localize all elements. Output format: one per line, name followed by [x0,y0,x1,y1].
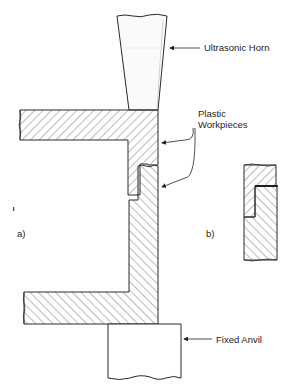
upper-workpiece [20,110,158,195]
ultrasonic-horn [117,14,167,110]
panel-a-label: a) [17,228,25,239]
detail-b [244,164,278,261]
workpiece-leader-lower [162,128,195,187]
fixed-anvil [108,324,181,380]
lower-workpiece [24,165,158,324]
horn-label: Ultrasonic Horn [204,42,269,53]
stray-mark [13,207,14,211]
anvil-label: Fixed Anvil [216,334,262,345]
ultrasonic-welding-diagram [0,0,290,389]
panel-b-label: b) [206,228,214,239]
workpieces-label-line1: Plastic [198,108,226,119]
workpieces-label-line2: Workpieces [198,119,247,130]
workpiece-leader-upper [162,128,193,143]
